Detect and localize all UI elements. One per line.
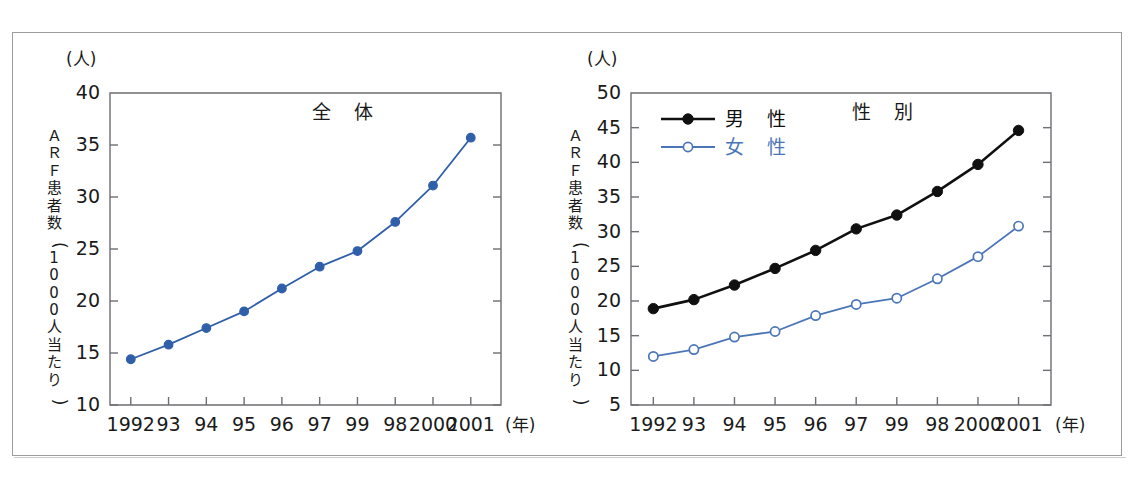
x-axis-tick-label: 96 [270, 413, 294, 435]
y-axis-tick-label: 15 [76, 341, 100, 363]
plot-title: 全 体 [312, 101, 375, 123]
y-axis-title-char: 0 [570, 284, 580, 302]
y-axis-title-char: た [568, 353, 583, 371]
data-point-marker [164, 340, 173, 349]
y-axis-tick-label: 25 [76, 237, 100, 259]
y-axis-title-char: 0 [570, 266, 580, 284]
y-axis-tick-label: 40 [597, 150, 621, 172]
y-axis-tick-label: 30 [76, 185, 100, 207]
data-point-marker [811, 311, 820, 320]
x-axis-unit-label: (年) [1055, 415, 1085, 435]
y-axis-title-char: 0 [49, 266, 59, 284]
y-axis-title-char: 数 [568, 214, 583, 232]
y-axis-title-char: 者 [568, 197, 583, 215]
x-axis-tick-label: 97 [844, 413, 868, 435]
series-line [653, 130, 1018, 308]
data-point-marker [892, 294, 901, 303]
top-clipped-header [0, 0, 1134, 14]
y-axis-title-char: ) [571, 399, 591, 406]
data-point-marker [240, 307, 249, 316]
bottom-clipped-footer [0, 462, 1134, 478]
legend-marker [683, 114, 693, 124]
y-axis-title-char: Ａ [47, 127, 62, 145]
data-point-marker [391, 218, 400, 227]
y-axis-unit-label: (人) [66, 49, 96, 69]
y-axis-tick-label: 45 [597, 116, 621, 138]
data-point-marker [315, 262, 324, 271]
y-axis-tick-label: 15 [597, 324, 621, 346]
x-axis-tick-label: 2001 [994, 413, 1042, 435]
series-line [131, 138, 471, 360]
y-axis-tick-label: 10 [597, 358, 621, 380]
figure-frame: (人)ＡＲＦ患者数(1000人当たり)101520253035401992939… [12, 32, 1122, 456]
y-axis-tick-label: 35 [597, 185, 621, 207]
data-point-marker [648, 303, 658, 313]
data-point-marker [729, 280, 739, 290]
y-axis-title: ＡＲＦ患者数(1000人当たり) [47, 127, 71, 405]
data-point-marker [851, 224, 861, 234]
data-point-marker [689, 294, 699, 304]
data-point-marker [429, 181, 438, 190]
y-axis-title-char: Ｆ [47, 162, 62, 180]
data-point-marker [278, 284, 287, 293]
x-axis-tick-label: 95 [763, 413, 787, 435]
overall-line-chart: (人)ＡＲＦ患者数(1000人当たり)101520253035401992939… [13, 33, 568, 457]
y-axis-title-char: 患 [568, 179, 583, 197]
y-axis-title-char: ( [571, 242, 591, 249]
data-point-marker [973, 159, 983, 169]
y-axis-tick-label: 20 [76, 289, 100, 311]
x-axis-tick-label: 1992 [629, 413, 677, 435]
y-axis-title-char: 1 [49, 249, 59, 267]
data-point-marker [689, 345, 698, 354]
data-point-marker [932, 186, 942, 196]
y-axis-title-char: 者 [47, 197, 62, 215]
x-axis-tick-label: 99 [345, 413, 369, 435]
x-axis-tick-label: 99 [885, 413, 909, 435]
legend-label: 男 性 [725, 108, 788, 130]
x-axis-tick-label: 93 [682, 413, 706, 435]
x-axis-tick-label: 2001 [447, 413, 495, 435]
x-axis-tick-label: 94 [722, 413, 746, 435]
plot-frame [110, 93, 501, 405]
y-axis-title-char: ) [50, 399, 70, 406]
data-point-marker [466, 133, 475, 142]
data-point-marker [1014, 222, 1023, 231]
x-axis-tick-label: 93 [156, 413, 180, 435]
y-axis-title-char: Ａ [568, 127, 583, 145]
y-axis-tick-label: 25 [597, 254, 621, 276]
x-axis-tick-label: 98 [925, 413, 949, 435]
x-axis-tick-label: 1992 [107, 413, 155, 435]
data-point-marker [892, 210, 902, 220]
data-point-marker [973, 252, 982, 261]
y-axis-tick-label: 40 [76, 81, 100, 103]
y-axis-title-char: Ｒ [568, 144, 583, 162]
data-point-marker [810, 245, 820, 255]
plot-title: 性 別 [852, 101, 915, 123]
legend-label: 女 性 [725, 136, 788, 158]
y-axis-title-char: Ｒ [47, 144, 62, 162]
y-axis-tick-label: 10 [76, 393, 100, 415]
chart-panel-by-sex: (人)ＡＲＦ患者数(1000人当たり)510152025303540455019… [553, 33, 1123, 457]
y-axis-title-char: 患 [47, 179, 62, 197]
data-point-marker [770, 327, 779, 336]
y-axis-title-char: 当 [568, 336, 583, 354]
x-axis-tick-label: 95 [232, 413, 256, 435]
y-axis-title-char: 当 [47, 336, 62, 354]
y-axis-title-char: り [47, 371, 62, 389]
x-axis-tick-label: 97 [308, 413, 332, 435]
y-axis-title-char: ( [50, 242, 70, 249]
data-point-marker [649, 352, 658, 361]
y-axis-tick-label: 30 [597, 220, 621, 242]
data-point-marker [852, 300, 861, 309]
x-axis-tick-label: 94 [194, 413, 218, 435]
y-axis-title-char: 0 [49, 284, 59, 302]
y-axis-title-char: り [568, 371, 583, 389]
y-axis-title-char: 数 [47, 214, 62, 232]
y-axis-title-char: 1 [570, 249, 580, 267]
y-axis-title-char: 人 [568, 318, 583, 336]
by-sex-line-chart: (人)ＡＲＦ患者数(1000人当たり)510152025303540455019… [553, 33, 1123, 457]
data-point-marker [1013, 125, 1023, 135]
y-axis-tick-label: 50 [597, 81, 621, 103]
y-axis-tick-label: 20 [597, 289, 621, 311]
series-line [653, 226, 1018, 356]
